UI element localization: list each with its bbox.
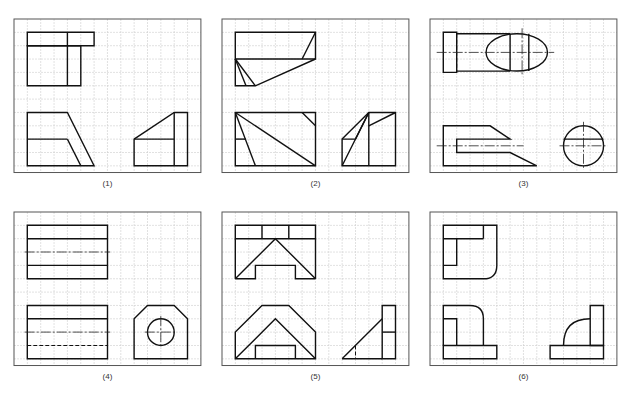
panel-5-caption: (5) xyxy=(222,372,409,381)
panel-1-caption: (1) xyxy=(14,179,201,188)
panel-2-drawing xyxy=(222,19,409,173)
panel-3-drawing xyxy=(430,19,617,173)
panel-1-drawing xyxy=(14,19,201,173)
panel-1 xyxy=(14,19,201,173)
panel-2-caption: (2) xyxy=(222,179,409,188)
panel-6-drawing xyxy=(430,212,617,366)
panel-3 xyxy=(430,19,617,173)
panel-3-caption: (3) xyxy=(430,179,617,188)
panel-5-drawing xyxy=(222,212,409,366)
panel-2 xyxy=(222,19,409,173)
panel-4-drawing xyxy=(14,212,201,366)
panel-4-caption: (4) xyxy=(14,372,201,381)
panel-6-caption: (6) xyxy=(430,372,617,381)
panel-5 xyxy=(222,212,409,366)
panel-6 xyxy=(430,212,617,366)
panel-4 xyxy=(14,212,201,366)
